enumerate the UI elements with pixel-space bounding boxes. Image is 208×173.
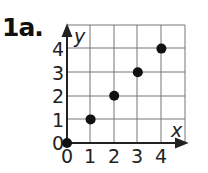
data-point [62, 138, 72, 148]
data-point [156, 44, 166, 54]
svg-text:2: 2 [108, 145, 120, 167]
y-axis-label: y [73, 25, 86, 47]
svg-text:4: 4 [52, 38, 64, 60]
svg-text:1: 1 [84, 145, 96, 167]
x-axis-label: x [170, 119, 183, 141]
data-point [133, 67, 143, 77]
svg-text:1: 1 [52, 109, 64, 131]
x-ticks: 0 1 2 3 4 [61, 145, 167, 167]
data-point [109, 91, 119, 101]
y-ticks: 4 3 2 1 0 [52, 38, 64, 154]
data-point [86, 114, 96, 124]
svg-text:3: 3 [131, 145, 143, 167]
svg-text:4: 4 [155, 145, 167, 167]
svg-text:2: 2 [52, 85, 64, 107]
scatter-chart: y x 4 3 2 1 0 0 1 2 3 4 [0, 0, 208, 173]
y-axis-arrow-icon [63, 26, 71, 36]
svg-text:0: 0 [61, 145, 73, 167]
svg-text:3: 3 [52, 62, 64, 84]
